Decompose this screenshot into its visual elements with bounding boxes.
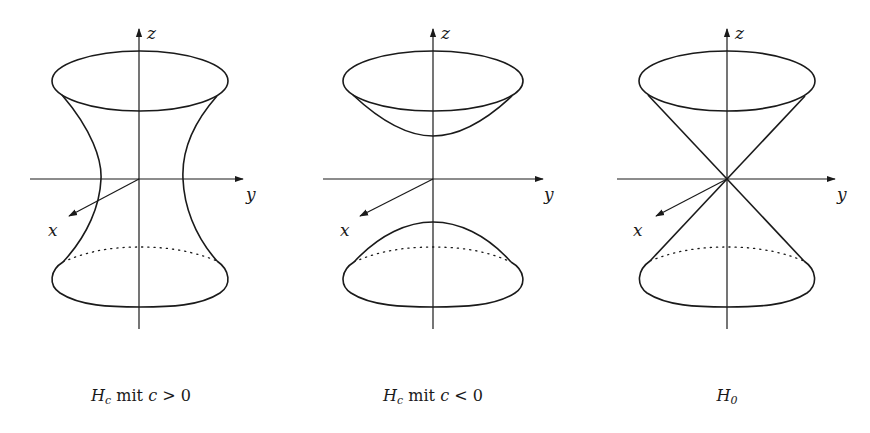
x-axis — [656, 179, 727, 216]
caption-symbol: H — [383, 386, 397, 405]
caption-subscript: c — [105, 394, 111, 407]
caption-subscript: 0 — [730, 394, 737, 407]
caption-variable: c — [148, 386, 157, 405]
caption-two-sheet: Hc mit c < 0 — [383, 386, 483, 407]
top-ellipse — [52, 51, 228, 111]
y-axis-label: y — [245, 184, 256, 204]
caption-value: 0 — [181, 386, 191, 405]
caption-cone: H0 — [717, 386, 738, 407]
panel-double-cone: z y x — [617, 23, 847, 329]
caption-relation: > — [162, 386, 175, 405]
x-axis-label: x — [633, 220, 643, 240]
bottom-ellipse-front — [52, 261, 228, 307]
caption-subscript: c — [397, 394, 403, 407]
panel-two-sheet-hyperboloid: z y x — [323, 23, 554, 329]
y-axis-label: y — [543, 184, 554, 204]
z-axis-label: z — [146, 23, 157, 43]
caption-value: 0 — [473, 386, 483, 405]
x-axis-label: x — [48, 220, 58, 240]
x-axis — [360, 179, 433, 216]
caption-symbol: H — [91, 386, 105, 405]
x-axis — [69, 179, 139, 216]
caption-word: mit — [116, 386, 143, 405]
caption-symbol: H — [717, 386, 731, 405]
cone-generator-left-lower — [650, 179, 727, 261]
cone-generator-right-lower — [727, 179, 804, 261]
bottom-ellipse-back-dotted — [63, 247, 217, 262]
caption-variable: c — [440, 386, 449, 405]
z-axis-label: z — [734, 23, 745, 43]
panel-one-sheet-hyperboloid: z y x — [30, 23, 256, 329]
hyperboloid-figure: z y x z y x — [0, 0, 870, 433]
z-axis-label: z — [440, 23, 451, 43]
x-axis-label: x — [340, 220, 350, 240]
caption-one-sheet: Hc mit c > 0 — [91, 386, 191, 407]
y-axis-label: y — [836, 184, 847, 204]
caption-word: mit — [408, 386, 435, 405]
caption-relation: < — [454, 386, 467, 405]
